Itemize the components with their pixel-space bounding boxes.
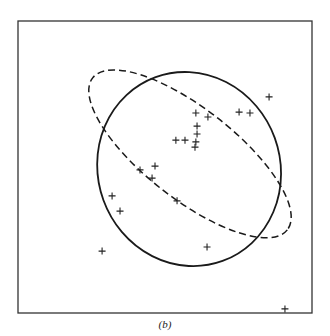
data-point-plus-icon bbox=[246, 109, 253, 116]
ellipses-layer bbox=[65, 42, 315, 292]
data-point-plus-icon bbox=[181, 137, 188, 144]
data-point-plus-icon bbox=[194, 131, 201, 138]
points-layer bbox=[99, 93, 289, 312]
data-point-plus-icon bbox=[149, 175, 156, 182]
dashed-ellipse bbox=[65, 42, 315, 265]
data-point-plus-icon bbox=[204, 114, 211, 121]
data-point-plus-icon bbox=[99, 248, 106, 255]
figure-caption: (b) bbox=[0, 318, 330, 330]
data-point-plus-icon bbox=[192, 109, 199, 116]
data-point-plus-icon bbox=[192, 138, 199, 145]
data-point-plus-icon bbox=[266, 93, 273, 100]
data-point-plus-icon bbox=[191, 144, 198, 151]
data-point-plus-icon bbox=[109, 192, 116, 199]
data-point-plus-icon bbox=[117, 208, 124, 215]
data-point-plus-icon bbox=[204, 244, 211, 251]
data-point-plus-icon bbox=[281, 305, 288, 312]
scatter-plot bbox=[0, 0, 330, 336]
data-point-plus-icon bbox=[172, 137, 179, 144]
data-point-plus-icon bbox=[152, 163, 159, 170]
data-point-plus-icon bbox=[236, 109, 243, 116]
data-point-plus-icon bbox=[194, 123, 201, 130]
solid-ellipse bbox=[70, 46, 308, 292]
